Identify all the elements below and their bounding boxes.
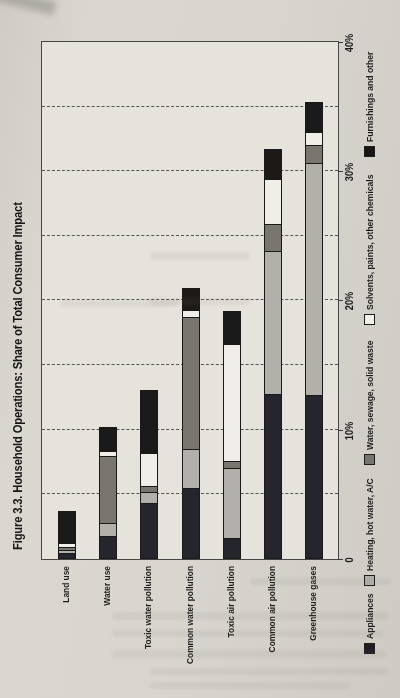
segment-furnishings-and-other bbox=[58, 511, 76, 543]
axis-label-20pct: 20% bbox=[344, 281, 355, 321]
category-label: Common air pollution bbox=[267, 566, 277, 677]
segment-furnishings-and-other bbox=[223, 311, 241, 345]
legend-swatch-icon bbox=[364, 575, 375, 586]
bar-toxic-air-pollution bbox=[223, 311, 241, 559]
segment-furnishings-and-other bbox=[99, 427, 117, 452]
legend-swatch-icon bbox=[364, 454, 375, 465]
segment-heating-hot-water-a-c bbox=[264, 251, 282, 394]
legend-label: Solvents, paints, other chemicals bbox=[364, 175, 375, 310]
category-label: Toxic air pollution bbox=[226, 566, 236, 677]
segment-furnishings-and-other bbox=[264, 149, 282, 180]
segment-appliances bbox=[99, 536, 117, 559]
segment-water-sewage-solid-waste bbox=[182, 317, 200, 450]
segment-furnishings-and-other bbox=[182, 288, 200, 311]
gridline-30pct bbox=[42, 170, 338, 171]
legend-item: Heating, hot water, A/C bbox=[364, 468, 375, 586]
segment-appliances bbox=[305, 395, 323, 559]
plot-area bbox=[41, 41, 339, 560]
legend-item: Appliances bbox=[364, 588, 375, 654]
segment-water-sewage-solid-waste bbox=[223, 462, 241, 470]
segment-solvents-paints-other-chemicals bbox=[305, 132, 323, 146]
bar-common-air-pollution bbox=[264, 149, 282, 559]
legend-label: Water, sewage, solid waste bbox=[364, 340, 375, 449]
figure-title: Figure 3.3. Household Operations: Share … bbox=[11, 202, 25, 550]
scanned-book-page: { "figure": { "title": "Figure 3.3. Hous… bbox=[0, 0, 400, 698]
category-label: Common water pollution bbox=[185, 566, 195, 677]
segment-solvents-paints-other-chemicals bbox=[140, 453, 158, 487]
segment-appliances bbox=[140, 503, 158, 559]
axis-tick bbox=[338, 301, 343, 302]
bar-toxic-water-pollution bbox=[140, 390, 158, 559]
segment-furnishings-and-other bbox=[305, 102, 323, 133]
legend-label: Appliances bbox=[364, 593, 375, 639]
legend: AppliancesHeating, hot water, A/CWater, … bbox=[364, 42, 375, 654]
segment-appliances bbox=[182, 488, 200, 559]
segment-furnishings-and-other bbox=[140, 390, 158, 455]
category-label: Greenhouse gases bbox=[308, 566, 318, 677]
segment-solvents-paints-other-chemicals bbox=[264, 179, 282, 224]
legend-swatch-icon bbox=[364, 146, 375, 157]
legend-swatch-icon bbox=[364, 314, 375, 325]
axis-tick bbox=[338, 171, 343, 172]
bar-greenhouse-gases bbox=[305, 102, 323, 559]
category-label: Toxic water pollution bbox=[143, 566, 153, 677]
axis-label-40pct: 40% bbox=[344, 23, 355, 63]
segment-heating-hot-water-a-c bbox=[223, 468, 241, 539]
legend-item: Water, sewage, solid waste bbox=[364, 328, 375, 465]
bar-land-use bbox=[58, 511, 76, 559]
bar-water-use bbox=[99, 427, 117, 559]
axis-label-10pct: 10% bbox=[344, 411, 355, 451]
legend-swatch-icon bbox=[364, 643, 375, 654]
segment-water-sewage-solid-waste bbox=[99, 456, 117, 523]
axis-tick bbox=[338, 430, 343, 431]
segment-water-sewage-solid-waste bbox=[305, 145, 323, 164]
axis-label-30pct: 30% bbox=[344, 152, 355, 192]
segment-heating-hot-water-a-c bbox=[140, 492, 158, 505]
bar-common-water-pollution bbox=[182, 288, 200, 559]
segment-solvents-paints-other-chemicals bbox=[182, 310, 200, 318]
gridline-25pct bbox=[42, 235, 338, 236]
segment-solvents-paints-other-chemicals bbox=[223, 344, 241, 463]
segment-water-sewage-solid-waste bbox=[264, 224, 282, 252]
segment-heating-hot-water-a-c bbox=[182, 449, 200, 489]
axis-tick bbox=[338, 559, 343, 560]
rotated-chart-figure: Figure 3.3. Household Operations: Share … bbox=[0, 0, 400, 698]
segment-heating-hot-water-a-c bbox=[99, 523, 117, 537]
axis-label-0: 0 bbox=[344, 540, 355, 580]
category-label: Water use bbox=[102, 566, 112, 677]
legend-label: Furnishings and other bbox=[364, 52, 375, 142]
segment-appliances bbox=[264, 394, 282, 559]
axis-tick bbox=[338, 42, 343, 43]
legend-item: Furnishings and other bbox=[364, 42, 375, 157]
segment-heating-hot-water-a-c bbox=[305, 163, 323, 396]
legend-label: Heating, hot water, A/C bbox=[364, 478, 375, 571]
legend-item: Solvents, paints, other chemicals bbox=[364, 160, 375, 325]
category-label: Land use bbox=[61, 566, 71, 677]
gridline-35pct bbox=[42, 106, 338, 107]
segment-appliances bbox=[223, 538, 241, 559]
